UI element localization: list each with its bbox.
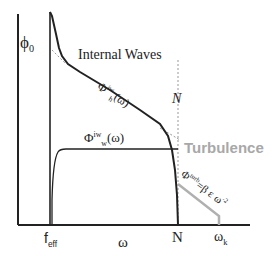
x-label-omegak: ωk: [214, 230, 227, 247]
n-italic-label: N: [172, 92, 181, 106]
spectrum-diagram: ϕ0 Internal Waves Φiwh(ω) N Φiww(ω) Turb…: [0, 0, 280, 256]
x-label-omega: ω: [118, 235, 128, 250]
diagram-canvas: [0, 0, 280, 256]
phi-w-curve: [52, 149, 178, 225]
internal-waves-label: Internal Waves: [78, 48, 162, 62]
turbulence-label: Turbulence: [184, 140, 264, 155]
phi-w-label: Φiww(ω): [84, 131, 124, 148]
phi-h-curve: [50, 12, 178, 225]
x-label-n: N: [172, 230, 183, 245]
x-label-feff: feff: [44, 231, 57, 248]
phi0-label: ϕ0: [20, 34, 34, 55]
